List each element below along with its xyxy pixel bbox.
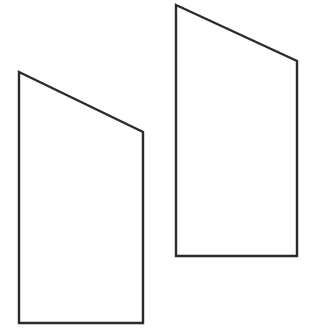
shapes-diagram: Two quadrilaterals bbox=[0, 0, 317, 332]
figure-canvas: Two quadrilaterals bbox=[0, 0, 317, 332]
